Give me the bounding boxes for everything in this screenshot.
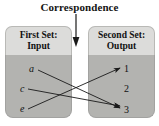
correspondence-diagram: Correspondence First Set: Input Second S…: [0, 0, 159, 126]
arrow-c-to-3: [28, 89, 120, 106]
arrow-e-to-1: [28, 68, 120, 109]
mapping-arrows: [0, 0, 159, 126]
arrow-a-to-3: [38, 70, 120, 108]
